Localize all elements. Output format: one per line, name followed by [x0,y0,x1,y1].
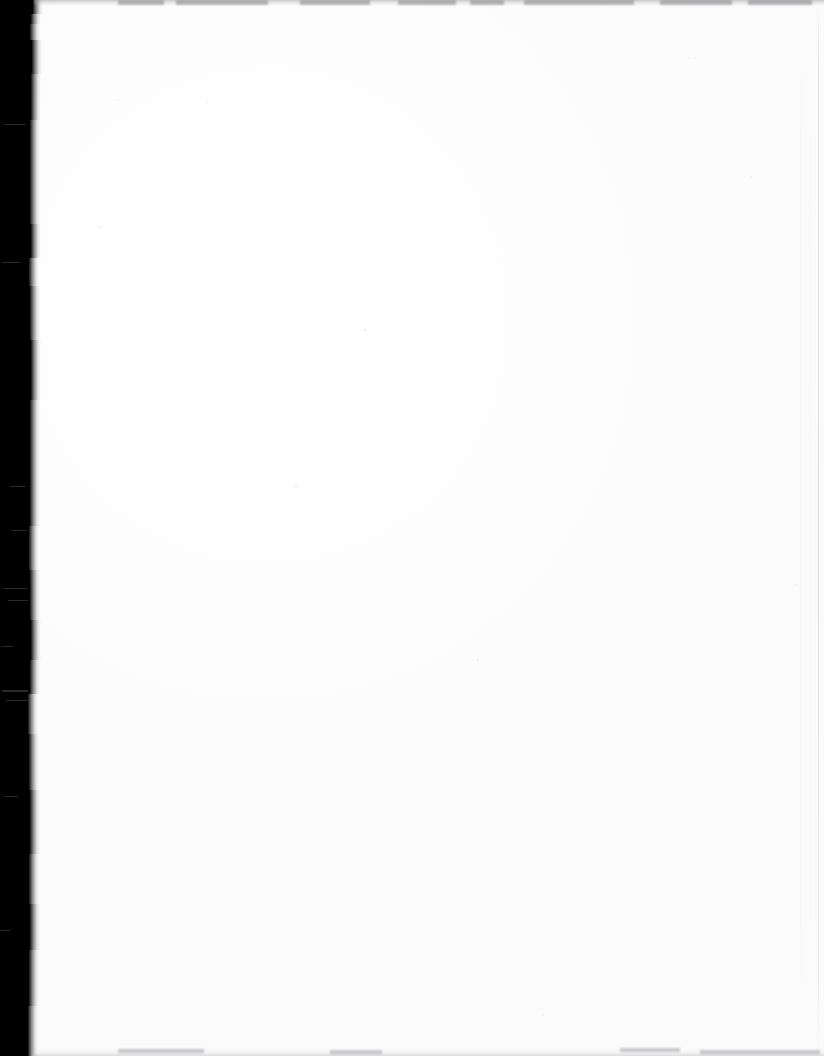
scanned-page [0,0,824,1056]
scanner-edge-segment [0,734,29,790]
scanner-edge-segment [0,620,31,660]
scanner-edge-segment [0,120,30,180]
scanner-edge-segment [0,340,31,400]
scanner-edge-segment [0,526,29,570]
scanner-edge-segment [0,950,29,1006]
scanner-edge-segment [0,470,30,526]
scanner-edge-segment [0,904,30,950]
scanner-edge-segment [0,14,31,24]
scanner-edge-segment [0,224,31,258]
scanner-edge-segment [0,1006,28,1056]
scanner-edge-segment [0,286,30,340]
scanner-edge-segment [0,660,30,694]
scanner-edge-segment [0,180,30,224]
page-content-area [60,40,780,1016]
scanner-edge-segment [0,570,30,620]
scanner-edge-segment [0,400,30,470]
scanner-edge-segment [0,24,30,40]
scanner-edge-segment [0,0,33,14]
scanner-edge-segment [0,694,28,734]
scanner-edge-segment [0,854,29,904]
scanner-edge-segment [0,258,29,286]
scanner-edge-segment [0,74,31,120]
scanner-edge-segment [0,790,30,854]
scanner-edge-segment [0,40,32,74]
